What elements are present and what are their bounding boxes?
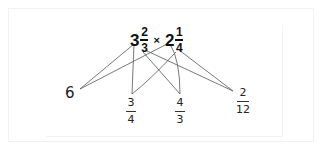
- connection-lines: [0, 0, 325, 151]
- product-3-4: 3 4: [126, 97, 136, 126]
- denominator: 3: [177, 114, 184, 126]
- product-whole: 6: [65, 84, 75, 102]
- fraction-bar: [126, 111, 136, 112]
- denominator: 12: [236, 104, 250, 116]
- line-3-to-6: [80, 44, 134, 89]
- left-numerator: 2: [141, 26, 148, 38]
- numerator: 3: [128, 97, 135, 109]
- multiplication-expression: 3 2 3 × 2 1 4: [130, 26, 183, 54]
- line-1-4-to-2-12: [179, 50, 233, 91]
- denominator: 4: [128, 114, 135, 126]
- right-denominator: 4: [176, 42, 183, 54]
- times-operator: ×: [153, 34, 159, 46]
- line-2-3-to-4-3: [143, 52, 180, 94]
- right-numerator: 1: [176, 26, 183, 38]
- left-denominator: 3: [141, 42, 148, 54]
- numerator: 2: [240, 87, 247, 99]
- fraction-bar: [237, 101, 249, 102]
- numerator: 4: [177, 97, 184, 109]
- right-whole-number: 2: [165, 32, 174, 49]
- fraction-bar: [175, 111, 185, 112]
- product-4-3: 4 3: [175, 97, 185, 126]
- right-fraction: 1 4: [175, 26, 183, 54]
- left-whole-number: 3: [130, 32, 139, 49]
- left-fraction: 2 3: [140, 26, 148, 54]
- product-2-12: 2 12: [236, 87, 250, 116]
